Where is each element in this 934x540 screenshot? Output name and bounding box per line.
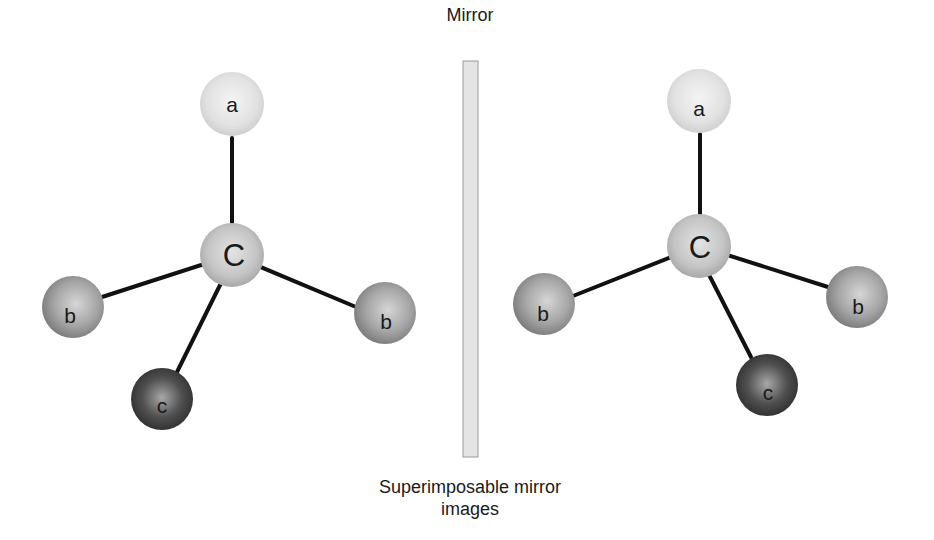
- atom-b-left: b: [42, 276, 104, 338]
- svg-text:b: b: [64, 304, 76, 327]
- atom-center-carbon: C: [200, 223, 264, 287]
- svg-text:b: b: [537, 302, 549, 325]
- atom-c: c: [736, 354, 798, 416]
- svg-text:b: b: [380, 310, 392, 333]
- caption: Superimposable mirror images: [300, 476, 640, 520]
- bond-c-c: [177, 273, 226, 372]
- atom-a: a: [667, 69, 731, 133]
- mirror-plane: [463, 61, 478, 457]
- atom-b-right: b: [354, 282, 416, 344]
- caption-line-1: Superimposable mirror: [300, 476, 640, 498]
- right-molecule: a b b c C: [513, 69, 888, 416]
- mirror-label: Mirror: [420, 5, 520, 26]
- svg-text:a: a: [693, 97, 705, 120]
- atom-b-left: b: [513, 273, 575, 335]
- svg-text:c: c: [157, 394, 168, 417]
- svg-text:a: a: [226, 93, 238, 116]
- atom-c: c: [131, 368, 193, 430]
- svg-text:c: c: [763, 381, 774, 404]
- atom-b-right: b: [826, 266, 888, 328]
- svg-text:C: C: [223, 238, 245, 273]
- mirror-image-diagram: a b b c C a b: [0, 0, 934, 540]
- atom-center-carbon: C: [667, 214, 731, 278]
- bond-c-c: [704, 265, 751, 357]
- caption-line-2: images: [300, 498, 640, 520]
- svg-text:C: C: [689, 230, 711, 265]
- left-molecule: a b b c C: [42, 72, 416, 430]
- svg-text:b: b: [852, 295, 864, 318]
- atom-a: a: [200, 72, 264, 136]
